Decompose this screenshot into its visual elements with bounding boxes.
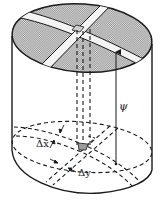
column-base-cell [78,143,88,150]
psi-label: ψ [119,100,128,113]
delta-y-label: Δy [78,167,91,178]
delta-x-dimension [50,125,64,148]
delta-x-label: Δx [36,138,49,149]
delta-y-dimension [50,159,76,172]
cylinder-diagram: ψ Δx Δy [0,0,160,209]
